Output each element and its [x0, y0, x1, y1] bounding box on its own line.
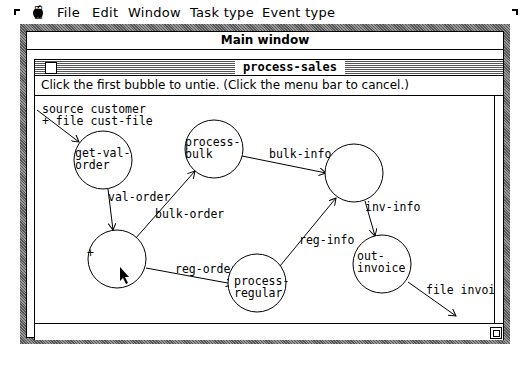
flow-bulk-info[interactable]: bulk-info: [242, 147, 331, 173]
vertical-scrollbar[interactable]: [494, 96, 503, 323]
bubble-label: invoice: [357, 261, 406, 275]
menu-window[interactable]: Window: [128, 5, 181, 20]
apple-logo-icon[interactable]: [32, 5, 44, 19]
diagram-window: process-sales Click the first bubble to …: [34, 59, 504, 340]
flow-label-file-cust-file: + file cust-file: [42, 114, 153, 128]
plus-marker-icon: +: [87, 246, 94, 260]
screen-corner-left: [14, 9, 20, 15]
flow-label-inv-info: inv-info: [365, 200, 420, 214]
diagram-canvas[interactable]: source customer + file cust-file val-ord…: [35, 96, 495, 323]
bubble-process-bulk[interactable]: process- bulk: [185, 120, 243, 178]
flow-reg-info[interactable]: reg-info: [280, 198, 354, 266]
flow-label-file-invoice: file invoice: [426, 283, 495, 297]
prompt-message: Click the first bubble to untie. (Click …: [35, 76, 503, 96]
flow-label-bulk-info: bulk-info: [269, 147, 331, 161]
main-window-title[interactable]: Main window: [27, 32, 503, 50]
menu-event-type[interactable]: Event type: [262, 5, 335, 20]
bubble-label: bulk: [185, 147, 213, 161]
bubble-label: order: [75, 158, 110, 172]
bubble-process-regular[interactable]: process- regular: [228, 254, 289, 312]
close-box-icon[interactable]: [45, 62, 57, 74]
bubble-get-val-order[interactable]: get-val- order: [74, 131, 132, 189]
grow-box-icon[interactable]: [490, 327, 502, 339]
flow-reg-order[interactable]: reg-order: [146, 262, 237, 284]
flow-label-reg-order: reg-order: [175, 262, 237, 276]
diagram-window-title: process-sales: [235, 60, 345, 75]
bubble-unnamed-right[interactable]: [325, 144, 383, 202]
screen-corner-right: [512, 9, 518, 15]
flow-label-bulk-order: bulk-order: [155, 207, 224, 221]
flow-label-reg-info: reg-info: [299, 233, 354, 247]
menu-file[interactable]: File: [57, 5, 80, 20]
horizontal-scrollbar[interactable]: [35, 323, 503, 340]
diagram-window-title-bar[interactable]: process-sales: [35, 60, 503, 76]
menu-edit[interactable]: Edit: [92, 5, 118, 20]
menu-bar:  File Edit Window Task type Event type: [0, 0, 532, 24]
bubble-unnamed-selected[interactable]: +: [87, 230, 146, 288]
bubble-label: regular: [234, 286, 283, 300]
flow-label-val-order: val-order: [108, 190, 170, 204]
menu-task-type[interactable]: Task type: [190, 5, 254, 20]
flow-inv-info[interactable]: inv-info: [365, 200, 420, 236]
flow-file-invoice[interactable]: file invoice: [408, 282, 495, 316]
flow-bulk-order[interactable]: bulk-order: [135, 171, 224, 239]
bubble-out-invoice[interactable]: out- invoice: [353, 235, 411, 293]
